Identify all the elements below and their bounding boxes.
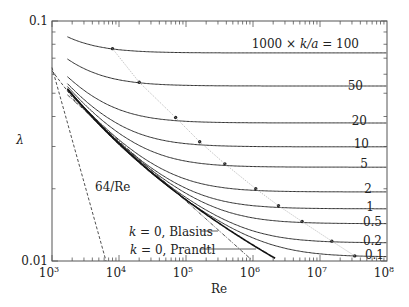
axis-ticks [52, 21, 387, 261]
moody-chart: 1031041051061071080.010.1Reλ1000 × k/a =… [0, 0, 409, 307]
x-tick-label: 105 [173, 265, 193, 280]
transition-dot [353, 254, 356, 257]
roughness-curve-0p5 [67, 89, 386, 224]
x-tick-exponent: 7 [322, 265, 327, 274]
x-tick-label: 108 [374, 265, 394, 280]
roughness-curve-0p1 [67, 90, 386, 256]
k-var: k [130, 243, 137, 257]
roughness-curve-20 [67, 77, 386, 123]
laminar-label: 64/Re [95, 180, 130, 194]
blasius-label: k = 0, Blasius [129, 225, 213, 239]
laminar-64-over-re-line [52, 68, 106, 261]
y-tick-label-0p01: 0.01 [21, 254, 48, 268]
legend-value: = 100 [318, 37, 359, 51]
curve-label-2: 2 [364, 182, 372, 196]
k-var: k [129, 225, 136, 239]
curve-label-0p2: 0.2 [363, 234, 382, 248]
x-tick-exponent: 8 [389, 265, 394, 274]
roughness-curve-50 [67, 59, 386, 86]
roughness-curve-5 [67, 87, 386, 168]
legend-prefix: 1000 × [252, 37, 300, 51]
x-tick-label: 106 [240, 265, 260, 280]
curve-label-10: 10 [354, 137, 369, 151]
roughness-curve-10 [67, 84, 386, 147]
x-tick-label: 107 [307, 265, 327, 280]
laminar-branch-line [52, 71, 77, 104]
plot-frame-rect [52, 21, 387, 261]
x-tick-label: 104 [106, 265, 126, 280]
y-tick-label-0p1: 0.1 [29, 14, 48, 28]
curve-label-0p5: 0.5 [363, 215, 382, 229]
curve-label-1: 1 [366, 200, 374, 214]
plot-frame [52, 21, 387, 261]
x-tick-exponent: 4 [121, 265, 126, 274]
legend-var: k/a [300, 37, 318, 51]
labels-layer: 1031041051061071080.010.1Reλ1000 × k/a =… [15, 14, 394, 296]
curve-label-0p1: 0.1 [365, 248, 384, 262]
prandtl-label: k = 0, Prandtl [130, 243, 215, 257]
prandtl-text: = 0, Prandtl [137, 243, 215, 257]
curve-label-50: 50 [348, 79, 363, 93]
curve-label-100: 1000 × k/a = 100 [252, 37, 359, 51]
x-axis-label: Re [211, 282, 227, 296]
x-tick-exponent: 5 [188, 265, 193, 274]
x-tick-exponent: 3 [54, 265, 59, 274]
blasius-text: = 0, Blasius [136, 225, 213, 239]
curves-layer [67, 37, 386, 258]
curve-label-20: 20 [352, 114, 367, 128]
x-tick-exponent: 6 [255, 265, 260, 274]
curve-label-5: 5 [360, 157, 368, 171]
y-axis-label: λ [15, 133, 24, 147]
